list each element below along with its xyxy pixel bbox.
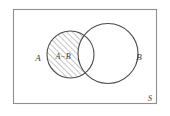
label-universal-set: S: [148, 94, 152, 103]
region-a-minus-b-shading: [0, 0, 170, 116]
label-set-b: B: [136, 52, 142, 62]
venn-diagram-figure: A B A−B S: [0, 0, 170, 116]
venn-diagram-canvas: A B A−B S: [0, 0, 170, 116]
label-region-a-minus-b: A−B: [54, 52, 70, 61]
label-set-a: A: [34, 53, 41, 63]
